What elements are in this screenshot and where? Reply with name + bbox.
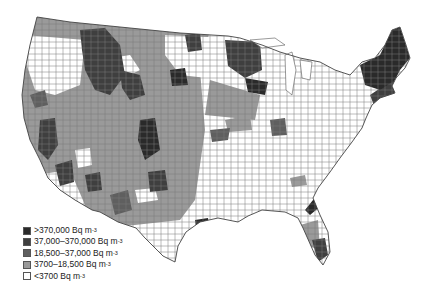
legend-swatch — [23, 238, 31, 246]
legend-swatch — [23, 272, 31, 280]
legend: >370,000 Bq m-3 37,000–370,000 Bq m-3 18… — [23, 225, 123, 282]
legend-item-moderate: 18,500–37,000 Bq m-3 — [23, 248, 123, 259]
legend-swatch — [23, 249, 31, 257]
legend-item-very-high: >370,000 Bq m-3 — [23, 225, 123, 236]
lake-huron — [300, 60, 312, 80]
legend-item-low: 3700–18,500 Bq m-3 — [23, 259, 123, 270]
legend-swatch — [23, 227, 31, 235]
legend-swatch — [23, 261, 31, 269]
legend-item-high: 37,000–370,000 Bq m-3 — [23, 236, 123, 247]
legend-item-very-low: <3700 Bq m-3 — [23, 271, 123, 282]
